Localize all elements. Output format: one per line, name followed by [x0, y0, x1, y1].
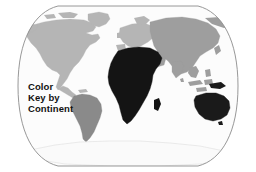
- world-map-svg: [0, 0, 256, 172]
- world-map-figure: Color Key by Continent: [0, 0, 256, 172]
